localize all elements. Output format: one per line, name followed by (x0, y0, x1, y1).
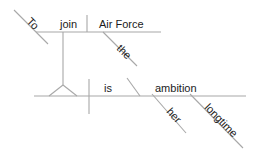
pedestal-leg-right (63, 85, 77, 96)
word-the: the (115, 42, 134, 61)
sentence-diagram: join Air Force To the is ambition her lo… (0, 0, 257, 151)
word-air-force: Air Force (99, 18, 144, 30)
pedestal-leg-left (49, 85, 63, 96)
word-join: join (59, 18, 77, 30)
diagram-canvas: join Air Force To the is ambition her lo… (0, 0, 257, 151)
word-is: is (104, 82, 112, 94)
word-ambition: ambition (155, 82, 197, 94)
word-her: her (165, 105, 185, 125)
word-longtime: longtime (203, 101, 241, 139)
word-to: To (25, 15, 42, 32)
predicate-nominative-divider (127, 78, 140, 96)
